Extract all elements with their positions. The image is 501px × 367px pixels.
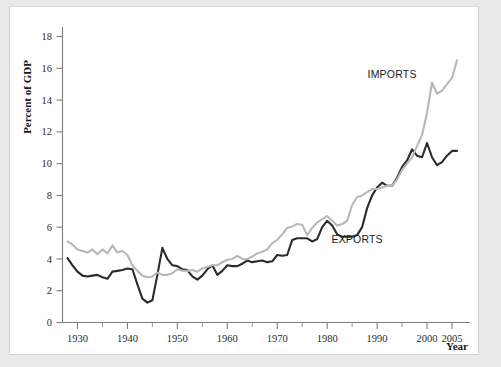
chart-figure: Percent of GDP Year 024681012141618 1930… bbox=[0, 0, 501, 367]
x-tick-label: 1970 bbox=[267, 333, 288, 344]
series-line-exports bbox=[67, 143, 457, 303]
y-tick-label: 18 bbox=[42, 31, 53, 42]
series-annotation-imports: IMPORTS bbox=[368, 68, 417, 80]
y-tick-label: 2 bbox=[47, 285, 52, 296]
x-minor-tick-group bbox=[102, 323, 402, 328]
y-tick-label: 14 bbox=[42, 95, 53, 106]
y-tick-label: 16 bbox=[42, 63, 53, 74]
y-axis-label: Percent of GDP bbox=[21, 60, 33, 134]
series-annotation-exports: EXPORTS bbox=[331, 233, 382, 245]
x-tick-label: 1930 bbox=[67, 333, 88, 344]
x-tick-label: 2000 bbox=[417, 333, 438, 344]
y-tick-label: 0 bbox=[47, 317, 52, 328]
x-tick-label: 1990 bbox=[367, 333, 388, 344]
y-tick-label: 6 bbox=[47, 222, 52, 233]
x-tick-label: 1940 bbox=[117, 333, 138, 344]
x-tick-label: 2005 bbox=[442, 333, 463, 344]
series-line-imports bbox=[67, 60, 457, 277]
y-tick-label: 12 bbox=[42, 126, 53, 137]
y-tick-label: 8 bbox=[47, 190, 52, 201]
x-tick-label: 1960 bbox=[217, 333, 238, 344]
annotation-group: IMPORTSEXPORTS bbox=[331, 68, 416, 245]
y-tick-label: 4 bbox=[47, 254, 53, 265]
chart-canvas: Percent of GDP Year 024681012141618 1930… bbox=[0, 0, 501, 367]
x-tick-label: 1980 bbox=[317, 333, 338, 344]
x-tick-label: 1950 bbox=[167, 333, 188, 344]
series-group bbox=[67, 60, 457, 302]
y-tick-label: 10 bbox=[42, 158, 53, 169]
x-tick-group: 193019401950196019701980199020002005 bbox=[67, 323, 463, 345]
y-tick-group: 024681012141618 bbox=[42, 31, 63, 328]
